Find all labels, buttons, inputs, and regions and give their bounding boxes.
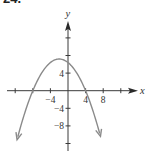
y-tick-label: −8 [54,121,64,131]
axes [7,21,138,151]
y-tick-label: −4 [54,104,64,114]
y-tick-label: 4 [59,69,64,79]
y-axis-label: y [65,8,71,19]
parabola-graph: −4484−4−8 x y [0,0,149,154]
x-axis-label: x [139,85,145,96]
x-tick-label: 8 [101,95,106,105]
